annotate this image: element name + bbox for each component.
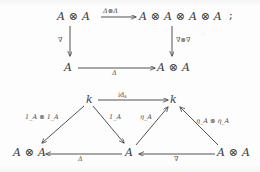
label-delta-bottom-left: Δ xyxy=(78,155,83,163)
arrow-one-tensor-one xyxy=(42,106,84,143)
document-page: A ⊗ A A ⊗ A ⊗ A ⊗ A A A ⊗ A Δ⊗Δ ∇ ∇⊗∇ Δ … xyxy=(0,0,260,172)
label-nabla-bottom-right: ∇ xyxy=(174,155,179,163)
trailing-semicolon: ; xyxy=(229,9,233,22)
label-eta-a: η_A xyxy=(140,113,152,121)
label-nabla-tensor-nabla: ∇⊗∇ xyxy=(176,36,191,44)
label-eta-tensor-eta: η_A ⊗ η_A xyxy=(196,117,229,125)
label-delta-tensor-delta: Δ⊗Δ xyxy=(103,7,118,15)
node-k-right: k xyxy=(170,93,177,106)
arrow-eta-tensor-eta xyxy=(180,107,218,145)
label-delta-bottom: Δ xyxy=(112,69,117,77)
node-bottom-left-a: A xyxy=(64,61,72,74)
node-k-left: k xyxy=(86,93,93,106)
label-id-k: idk xyxy=(118,91,127,99)
node-top-left-a-tensor-a: A ⊗ A xyxy=(57,10,90,23)
arrow-one-a xyxy=(93,106,124,143)
node-left-a-tensor-a: A ⊗ A xyxy=(13,146,46,159)
node-bottom-right-a-tensor-a: A ⊗ A xyxy=(157,61,190,74)
label-one-a: 1_A xyxy=(109,113,121,121)
node-top-right-a-tensor-a-tensor-a-tensor-a: A ⊗ A ⊗ A ⊗ A xyxy=(139,10,222,23)
node-center-a: A xyxy=(125,146,133,159)
label-one-tensor-one: 1_A ⊗ 1_A xyxy=(25,113,59,121)
label-nabla-left: ∇ xyxy=(58,36,63,44)
node-right-a-tensor-a: A ⊗ A xyxy=(217,146,250,159)
